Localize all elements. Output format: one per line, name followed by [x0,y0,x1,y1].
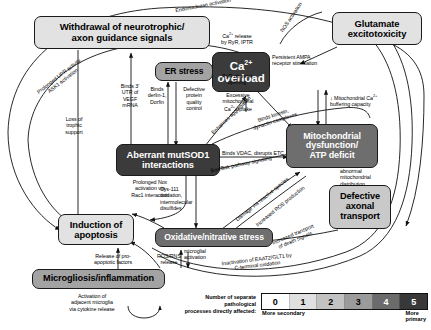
edge-label-derlin-dorfin: Bindsderlin-1,Dorfin [142,86,172,105]
legend-scale: 0 1 2 3 4 5 [261,293,428,310]
node-microgliosis-inflammation[interactable]: Microgliosis/inflammation [32,269,165,289]
edge-label-pro-apoptotic-factors: Release of pro-apoptotic factors [84,253,142,266]
node-er-stress[interactable]: ER stress [155,62,213,81]
node-withdrawal[interactable]: Withdrawal of neurotrophic/axon guidance… [34,16,210,49]
edge-label-abnormal-mito-distribution: abnormalmitochondrialdistribution [340,168,394,187]
legend-cell-1: 1 [290,294,318,309]
legend-cell-3: 3 [345,294,373,309]
edge-label-ros-rns-release: ROS/RNSrelease [152,253,186,266]
legend-cell-4: 4 [373,294,401,309]
legend-label-more-primary: More primary [405,310,426,322]
edge-label-ryr-channel-opening: RyR channelopening [213,73,261,86]
legend-cell-2: 2 [317,294,345,309]
edge-label-microglial-activation: microglialactivation [184,248,218,261]
node-axonal-label: Defectiveaxonaltransport [332,192,388,221]
edge-label-buffering-capacity: ↓ Mitochondrial Ca2+buffering capacity [330,94,392,107]
edge-label-loss-trophic-support: Loss oftrophicsupport [52,116,96,135]
node-microgliosis-label: Microgliosis/inflammation [35,274,162,284]
node-mitochondrial-dysfunction[interactable]: Mitochondrialdysfunction/ATP deficit [286,124,378,168]
node-ca-overload[interactable]: Ca2+overload [212,52,270,92]
edge-label-cys111-oxidation: Cys-111oxidation,intermoleculardisulfide… [160,186,202,211]
legend-cell-5: 5 [400,294,427,309]
edge-label-ca-release: Ca2+ releaseby RyR, IPTR [211,32,263,45]
node-glutamate-label: Glutamateexcitotoxicity [335,19,419,39]
node-er-stress-label: ER stress [158,67,210,76]
edge-label-cytokine-release: Activation ofadjacent microgliavia cytok… [58,293,126,312]
node-oxidative-label: Oxidative/nitrative stress [158,233,270,242]
node-mutsod1-label: Aberrant mutSOD1interactions [119,150,217,170]
edge-label-persistent-ampa: Persistent AMPAreceptor stimulation [272,54,334,67]
node-apoptosis-label: Induction ofapoptosis [61,220,131,240]
legend-caption: Number of separate pathologicalprocesses… [178,294,256,314]
node-withdrawal-label: Withdrawal of neurotrophic/axon guidance… [37,22,207,42]
legend-cell-0: 0 [262,294,290,309]
node-mito-label: Mitochondrialdysfunction/ATP deficit [289,132,375,161]
node-induction-apoptosis[interactable]: Induction ofapoptosis [58,214,134,245]
node-glutamate-excitotoxicity[interactable]: Glutamateexcitotoxicity [332,12,422,45]
node-oxidative-nitrative-stress[interactable]: Oxidative/nitrative stress [155,228,273,247]
diagram-canvas: Withdrawal of neurotrophic/axon guidance… [0,0,431,330]
node-defective-axonal-transport[interactable]: Defectiveaxonaltransport [329,185,391,229]
edge-label-protein-quality-control: Defectiveproteinqualitycontrol [176,86,212,111]
legend: Number of separate pathologicalprocesses… [178,294,428,328]
legend-label-more-secondary: More secondary [262,310,305,316]
